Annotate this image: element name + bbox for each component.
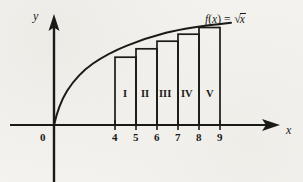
x-tick-label-6: 6 — [154, 132, 160, 143]
radical-expression: √x — [233, 13, 246, 26]
region-label-I: I — [123, 89, 127, 100]
origin-label: 0 — [40, 132, 46, 143]
equals-sign: = — [224, 13, 231, 25]
sqrt-curve — [54, 23, 231, 125]
x-tick-label-8: 8 — [196, 132, 202, 143]
figure-canvas — [0, 0, 303, 182]
y-axis-label: y — [33, 10, 38, 22]
x-tick-label-7: 7 — [175, 132, 181, 143]
radicand: x — [240, 13, 246, 26]
rectangle-IV — [178, 34, 199, 125]
x-tick-label-5: 5 — [133, 132, 139, 143]
region-label-V: V — [206, 89, 214, 100]
region-label-II: II — [141, 89, 149, 100]
rectangle-II — [136, 49, 157, 125]
x-tick-label-9: 9 — [217, 132, 223, 143]
region-label-IV: IV — [181, 89, 193, 100]
x-tick-label-4: 4 — [112, 132, 118, 143]
region-label-III: III — [159, 89, 171, 100]
paren-close: ) — [217, 13, 221, 25]
function-label: f(x) = √x — [205, 13, 246, 26]
rectangle-V — [199, 28, 220, 126]
riemann-sum-figure: y x 0 4 5 6 7 8 9 I II III IV V f(x) = √… — [0, 0, 303, 182]
rectangle-III — [157, 41, 178, 125]
x-axis-label: x — [286, 124, 291, 136]
riemann-rectangles — [115, 28, 220, 126]
